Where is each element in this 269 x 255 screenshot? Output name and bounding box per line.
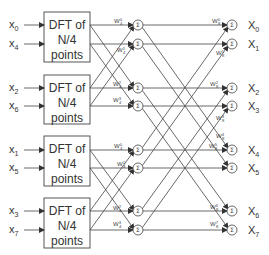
twiddle-stage2: W48 (216, 132, 225, 142)
output-label-X0: X0 (248, 19, 259, 34)
sigma-icon: Σ (230, 207, 234, 214)
sigma-icon: Σ (230, 164, 234, 171)
sigma-icon: Σ (136, 226, 140, 233)
dft-block-label: N/4 (58, 96, 77, 110)
sigma-icon: Σ (230, 146, 234, 153)
dft-block-label: points (51, 234, 83, 248)
input-label-x3: x3 (9, 204, 19, 219)
dft-block-label: DFT of (49, 18, 86, 32)
dft-block-label: N/4 (58, 157, 77, 171)
input-label-x4: x4 (9, 37, 19, 52)
input-label-x5: x5 (9, 161, 19, 176)
input-label-x2: x2 (9, 81, 19, 96)
output-label-X5: X5 (248, 162, 259, 177)
diagram-svg: ΣΣΣΣΣΣΣΣΣΣΣΣΣΣΣΣ DFT ofN/4pointsx0x4DFT … (0, 0, 269, 255)
twiddle-stage1: W34 (113, 220, 122, 230)
sigma-icon: Σ (136, 164, 140, 171)
sigma-icon: Σ (230, 40, 234, 47)
input-label-x1: x1 (9, 143, 19, 158)
sigma-icon: Σ (136, 21, 140, 28)
dft-block-label: points (51, 111, 83, 125)
fft-flow-diagram: ΣΣΣΣΣΣΣΣΣΣΣΣΣΣΣΣ DFT ofN/4pointsx0x4DFT … (0, 0, 269, 255)
dft-block-label: points (51, 48, 83, 62)
sigma-icon: Σ (136, 84, 140, 91)
dft-block-label: DFT of (49, 204, 86, 218)
output-label-X6: X6 (248, 205, 259, 220)
output-label-X1: X1 (248, 38, 259, 53)
twiddle-stage1: W24 (113, 204, 122, 214)
output-label-X2: X2 (248, 82, 259, 97)
sigma-icon: Σ (230, 102, 234, 109)
dft-block-label: DFT of (49, 81, 86, 95)
sigma-icon: Σ (136, 40, 140, 47)
output-label-X4: X4 (248, 144, 259, 159)
sigma-icon: Σ (230, 21, 234, 28)
sigma-icon: Σ (136, 146, 140, 153)
dft-block-label: N/4 (58, 219, 77, 233)
twiddle-stage2: W38 (216, 114, 225, 124)
input-label-x6: x6 (9, 99, 19, 114)
sigma-icon: Σ (136, 207, 140, 214)
twiddle-stage2: W78 (210, 220, 219, 230)
output-label-X7: X7 (248, 224, 259, 239)
input-label-x0: x0 (9, 18, 19, 33)
sigma-icon: Σ (230, 84, 234, 91)
twiddle-stage1: W14 (117, 46, 126, 56)
dft-block-label: points (51, 172, 83, 186)
sigma-icon: Σ (136, 102, 140, 109)
twiddle-stage1: W34 (113, 96, 122, 106)
dft-block-label: DFT of (49, 142, 86, 156)
sigma-icon: Σ (230, 226, 234, 233)
dft-block-label: N/4 (58, 33, 77, 47)
input-label-x7: x7 (9, 223, 19, 238)
output-label-X3: X3 (248, 100, 259, 115)
